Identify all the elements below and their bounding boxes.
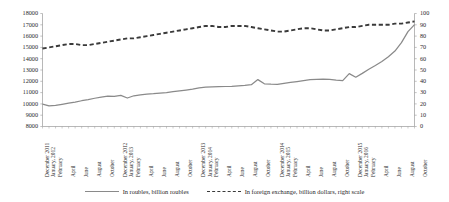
x-tick-label-line: August	[410, 161, 416, 177]
x-tick-label: April	[306, 166, 312, 177]
x-tick-label-line: August	[97, 161, 103, 177]
x-tick-label-line: August	[332, 161, 338, 177]
x-tick-label-line: April	[384, 166, 390, 177]
y-tick-label-right: 60	[420, 56, 446, 62]
x-tick-label-line: February	[136, 158, 142, 177]
x-tick-label: August	[332, 161, 338, 177]
x-tick-label-line: April	[71, 166, 77, 177]
x-tick-label: December 2013	[201, 143, 207, 177]
legend-item-1[interactable]: In roubles, billion roubles	[85, 188, 189, 195]
legend-label: In foreign exchange, billion dollars, ri…	[245, 188, 365, 195]
legend-item-2[interactable]: In foreign exchange, billion dollars, ri…	[207, 188, 365, 195]
x-tick-label-line: October	[423, 160, 429, 177]
x-tick-label-line: June	[319, 167, 325, 177]
y-tick-label-left: 18000	[2, 10, 38, 16]
x-tick-label-line: February	[371, 158, 377, 177]
y-tick-label-left: 15000	[2, 44, 38, 50]
x-tick-label: October	[110, 160, 116, 177]
x-tick-label-line: April	[306, 166, 312, 177]
x-tick-label: February	[58, 158, 64, 177]
x-tick-label: June	[240, 167, 246, 177]
x-tick-label-line: October	[345, 160, 351, 177]
y-tick-label-left: 16000	[2, 33, 38, 39]
x-tick-label: February	[136, 158, 142, 177]
chart-series-layer	[43, 21, 415, 106]
x-tick-label: January, 2015	[286, 147, 292, 177]
y-tick-label-right: 0	[420, 123, 446, 129]
x-tick-label-line: October	[110, 160, 116, 177]
x-tick-label-line: February	[293, 158, 299, 177]
x-tick-label: June	[84, 167, 90, 177]
x-tick-label-line: April	[227, 166, 233, 177]
series-line-1	[43, 25, 415, 106]
y-tick-label-right: 20	[420, 101, 446, 107]
y-tick-label-right: 50	[420, 67, 446, 73]
y-tick-label-right: 40	[420, 78, 446, 84]
x-tick-label-line: October	[266, 160, 272, 177]
y-tick-label-left: 9000	[2, 112, 38, 118]
x-tick-label: April	[227, 166, 233, 177]
chart-legend: In roubles, billion roublesIn foreign ex…	[0, 183, 449, 199]
y-tick-label-left: 17000	[2, 22, 38, 28]
y-tick-label-left: 12000	[2, 78, 38, 84]
x-tick-label: February	[371, 158, 377, 177]
y-tick-label-left: 14000	[2, 56, 38, 62]
x-tick-label-line: February	[214, 158, 220, 177]
x-tick-label: February	[293, 158, 299, 177]
y-tick-label-right: 80	[420, 33, 446, 39]
x-tick-label-line: August	[175, 161, 181, 177]
x-tick-label: August	[97, 161, 103, 177]
x-tick-label: October	[266, 160, 272, 177]
y-tick-label-right: 10	[420, 112, 446, 118]
x-tick-label: June	[162, 167, 168, 177]
y-tick-label-left: 13000	[2, 67, 38, 73]
x-tick-label: June	[397, 167, 403, 177]
x-tick-label-line: April	[149, 166, 155, 177]
x-tick-label-line: January, 2012	[51, 147, 57, 177]
y-tick-label-left: 8000	[2, 123, 38, 129]
x-tick-label: February	[214, 158, 220, 177]
y-tick-label-left: 11000	[2, 89, 38, 95]
x-tick-label: October	[345, 160, 351, 177]
x-tick-label: June	[319, 167, 325, 177]
x-tick-label-line: October	[188, 160, 194, 177]
x-tick-label-line: January, 2015	[286, 147, 292, 177]
chart-axes	[40, 14, 416, 129]
x-tick-label-line: June	[397, 167, 403, 177]
x-tick-label: August	[410, 161, 416, 177]
x-tick-label: April	[384, 166, 390, 177]
y-tick-label-right: 30	[420, 89, 446, 95]
x-tick-label: April	[149, 166, 155, 177]
x-tick-label: January, 2012	[51, 147, 57, 177]
legend-label: In roubles, billion roubles	[123, 188, 189, 195]
x-tick-label-line: June	[84, 167, 90, 177]
x-tick-label: April	[71, 166, 77, 177]
x-tick-label-line: February	[58, 158, 64, 177]
y-tick-label-right: 90	[420, 22, 446, 28]
x-tick-label: October	[423, 160, 429, 177]
x-tick-label-line: August	[253, 161, 259, 177]
chart-container: 8000900010000110001200013000140001500016…	[0, 0, 449, 202]
x-tick-label-line: December 2013	[201, 143, 207, 177]
x-tick-label-line: June	[240, 167, 246, 177]
x-tick-label: August	[175, 161, 181, 177]
y-tick-label-right: 100	[420, 10, 446, 16]
legend-swatch-dashed-icon	[207, 191, 241, 192]
series-line-2	[43, 21, 415, 48]
x-tick-label: October	[188, 160, 194, 177]
legend-swatch-solid-icon	[85, 191, 119, 192]
y-tick-label-left: 10000	[2, 101, 38, 107]
y-tick-label-right: 70	[420, 44, 446, 50]
x-tick-label: August	[253, 161, 259, 177]
x-tick-label-line: June	[162, 167, 168, 177]
chart-plot-area	[0, 0, 449, 202]
